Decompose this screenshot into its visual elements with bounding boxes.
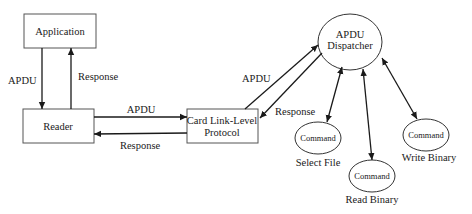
bidirectional-arrow-icon	[327, 67, 342, 122]
edge-card-link-to-dispatcher: APDU	[242, 45, 318, 109]
edge-label-response: Response	[78, 71, 119, 82]
dispatcher-label-line1: APDU	[336, 29, 365, 40]
application-node: Application	[24, 14, 96, 48]
edge-app-to-reader: APDU	[8, 48, 42, 109]
edge-label-response: Response	[275, 106, 316, 117]
apdu-dispatcher-node: APDU Dispatcher	[318, 14, 382, 70]
card-link-label-line2: Protocol	[204, 127, 240, 138]
write-binary-caption: Write Binary	[402, 152, 457, 163]
read-binary-caption: Read Binary	[346, 194, 400, 205]
edge-reader-to-app: Response	[71, 48, 119, 109]
command-write-binary-node: Command Write Binary	[402, 119, 457, 163]
reader-node: Reader	[23, 109, 94, 143]
command-label: Command	[300, 133, 336, 143]
edge-label-apdu: APDU	[127, 104, 156, 115]
dispatcher-label-line2: Dispatcher	[327, 40, 373, 51]
command-label: Command	[408, 130, 444, 140]
command-select-file-node: Command Select File	[295, 122, 341, 168]
bidirectional-arrow-icon	[363, 69, 372, 160]
card-link-level-protocol-node: Card Link-Level Protocol	[187, 109, 258, 143]
bidirectional-arrow-icon	[382, 58, 417, 119]
application-label: Application	[35, 26, 85, 37]
command-read-binary-node: Command Read Binary	[346, 160, 400, 205]
edge-dispatcher-to-card-link: Response	[260, 53, 322, 118]
edge-label-apdu: APDU	[8, 75, 37, 86]
select-file-caption: Select File	[296, 157, 341, 168]
edge-card-link-to-reader: Response	[94, 133, 187, 151]
edge-reader-to-card-link: APDU	[94, 104, 187, 117]
edge-label-apdu: APDU	[242, 73, 271, 84]
edge-label-response: Response	[120, 140, 161, 151]
reader-label: Reader	[43, 121, 73, 132]
card-link-label-line1: Card Link-Level	[187, 115, 257, 126]
arrow-left-icon	[94, 133, 187, 134]
apdu-architecture-diagram: Application Reader Card Link-Level Proto…	[0, 0, 472, 214]
command-label: Command	[354, 171, 390, 181]
